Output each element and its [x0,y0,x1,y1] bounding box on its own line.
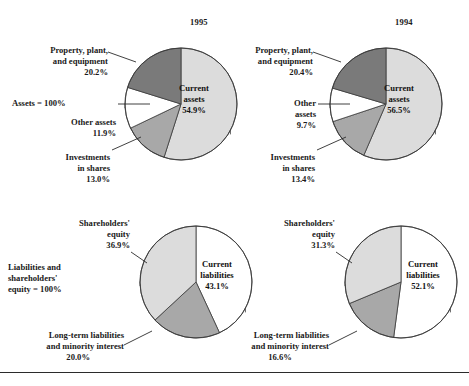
label-shareholders-1995-line1: Shareholders' [0,218,130,229]
label-ppe-1994-line1: Property, plant, [205,45,313,56]
slice-label-current-assets-1995-line2: assets [163,94,225,105]
value-other-assets-1995: 11.9% [0,128,116,139]
year-title-1994: 1994 [395,17,413,27]
leader-ppe-1994 [313,52,341,62]
liab-total-note-1995-line1: Liabilities and [8,262,61,273]
leader-shareholders-1994 [336,252,352,263]
bottom-divider [0,372,469,373]
label-investments-1995-line1: Investments [0,152,110,163]
label-investments-1994-line1: Investments [205,152,315,163]
label-longterm-1995-line2: and minority interest [0,341,124,352]
assets-total-note-1995: Assets = 100% [12,98,66,109]
leader-investments-1995 [112,137,141,150]
label-ppe-1995-line1: Property, plant, [0,45,108,56]
slice-label-current-liabilities-1994-line1: Current [388,259,458,270]
label-investments-1994-line2: in shares [205,163,315,174]
slice-label-current-liabilities-1995-line1: Current [182,259,252,270]
leader-investments-1994 [317,137,346,150]
value-ppe-1995: 20.2% [0,67,108,78]
liab-total-note-1995-line2: shareholders' [8,273,58,284]
value-longterm-1994: 16.6% [235,352,325,363]
value-ppe-1994: 20.4% [205,67,313,78]
label-ppe-1995-line2: and equipment [0,56,108,67]
leader-ppe-1995 [108,52,136,62]
slice-value-current-liabilities-1994: 52.1% [388,281,458,292]
leader-longterm-1994 [329,331,357,345]
slice-label-current-assets-1995-line1: Current [163,83,225,94]
value-longterm-1995: 20.0% [0,352,90,363]
figure-canvas: Current assets 54.9%Investments in share… [0,0,469,386]
slice-label-current-liabilities-1994-line2: liabilities [388,270,458,281]
value-investments-1994: 13.4% [205,174,315,185]
label-shareholders-1995-line2: equity [0,229,130,240]
slice-label-current-assets-1994-line2: assets [368,94,430,105]
label-other-assets-1994-line2: assets [230,109,316,120]
value-other-assets-1994: 9.7% [230,120,316,131]
slice-value-current-assets-1994: 56.5% [368,105,430,116]
label-other-assets-1995: Other assets [0,117,116,128]
label-ppe-1994-line2: and equipment [205,56,313,67]
slice-value-current-assets-1995: 54.9% [163,105,225,116]
label-shareholders-1994-line2: equity [205,229,335,240]
year-title-1995: 1995 [190,17,208,27]
slice-value-current-liabilities-1995: 43.1% [182,281,252,292]
label-longterm-1994-line1: Long-term liabilities [205,330,329,341]
value-investments-1995: 13.0% [0,174,110,185]
label-shareholders-1994-line1: Shareholders' [205,218,335,229]
slice-label-current-liabilities-1995-line2: liabilities [182,270,252,281]
slice-label-current-assets-1994-line1: Current [368,83,430,94]
value-shareholders-1995: 36.9% [0,240,130,251]
leader-longterm-1995 [124,331,152,345]
value-shareholders-1994: 31.3% [205,240,335,251]
liab-total-note-1995-line3: equity = 100% [8,284,62,295]
label-other-assets-1994-line1: Other [230,98,316,109]
label-longterm-1994-line2: and minority interest [205,341,329,352]
label-longterm-1995-line1: Long-term liabilities [0,330,124,341]
leader-shareholders-1995 [131,252,147,263]
label-investments-1995-line2: in shares [0,163,110,174]
